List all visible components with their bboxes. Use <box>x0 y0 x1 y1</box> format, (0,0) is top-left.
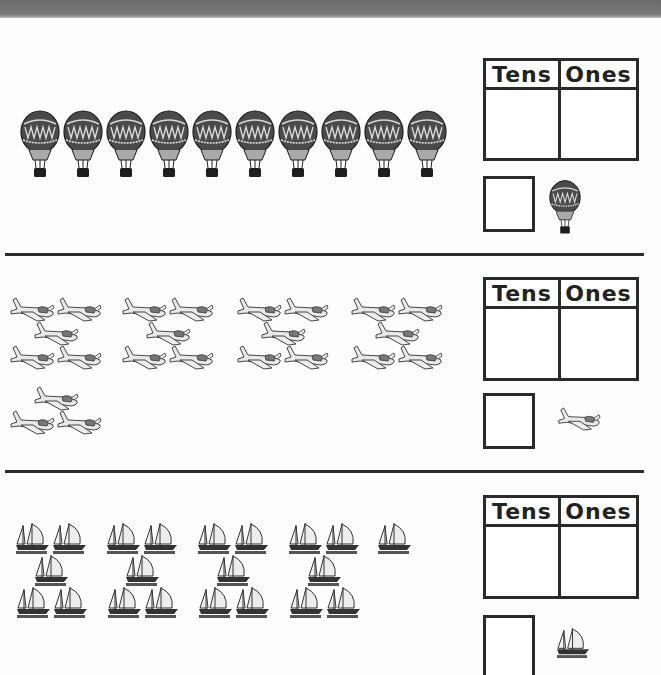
ones-answer-cell[interactable] <box>561 309 636 378</box>
ones-answer-cell[interactable] <box>561 527 636 596</box>
place-value-table: Tens Ones <box>483 58 639 161</box>
balloon-row <box>20 110 450 186</box>
balloon-icon-group <box>20 110 450 182</box>
ones-header: Ones <box>561 61 636 90</box>
tens-answer-cell[interactable] <box>486 90 561 158</box>
tens-answer-cell[interactable] <box>486 309 561 378</box>
total-answer-box[interactable] <box>483 615 535 675</box>
tens-answer-cell[interactable] <box>486 527 561 596</box>
tens-header: Tens <box>486 498 561 527</box>
total-answer-box[interactable] <box>483 393 535 449</box>
place-value-table: Tens Ones <box>483 495 639 599</box>
section-divider <box>5 470 644 473</box>
top-bar <box>0 0 661 18</box>
place-value-table: Tens Ones <box>483 277 639 381</box>
section-divider <box>5 253 644 256</box>
sailboat-icon <box>556 627 590 659</box>
ones-header: Ones <box>561 498 636 527</box>
ones-answer-cell[interactable] <box>561 90 636 158</box>
tens-header: Tens <box>486 280 561 309</box>
sailboat-icon-group <box>15 522 435 622</box>
balloon-icon <box>549 177 581 237</box>
total-answer-box[interactable] <box>483 176 535 232</box>
airplane-icon <box>555 405 601 431</box>
ones-header: Ones <box>561 280 636 309</box>
airplane-icon-group <box>7 295 467 445</box>
tens-header: Tens <box>486 61 561 90</box>
